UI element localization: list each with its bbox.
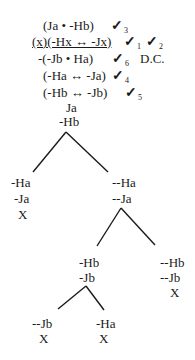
b2-right-line2: --Jb: [160, 271, 180, 285]
branch-line-3-left: [58, 286, 86, 309]
b2-right-line1: --Hb: [160, 256, 185, 270]
branch-line-1-right: [66, 132, 108, 172]
b3-right-line1: -Ha: [96, 317, 116, 331]
branch-line-3-right: [86, 286, 104, 310]
premise-3-conclusion-negation: -(-Jb • Ha): [38, 52, 93, 66]
closed-branch-x: X: [99, 332, 108, 346]
check-mark-icon: ✓5: [125, 86, 142, 105]
b3-left-line1: --Jb: [32, 317, 52, 331]
branch-line-2-left: [97, 208, 121, 246]
closed-branch-x: X: [39, 332, 48, 346]
branch-line-1-left: [33, 132, 66, 172]
closed-branch-x: X: [170, 286, 179, 300]
b2-left-line1: -Hb: [79, 256, 99, 270]
instance-a: (-Ha ↔ -Ja): [43, 69, 106, 83]
instance-b: (-Hb ↔ -Jb): [43, 86, 107, 100]
premise-1: (Ja • -Hb): [43, 19, 94, 33]
denied-conclusion-label: D.C.: [140, 52, 165, 66]
branch-line-2-right: [121, 208, 155, 245]
closed-branch-x: X: [18, 208, 27, 222]
b1-right-line2: --Ja: [112, 192, 132, 206]
trunk-not-hb: -Hb: [59, 115, 79, 129]
b2-left-line2: -Jb: [79, 271, 95, 285]
b1-left-line1: -Ha: [11, 176, 31, 190]
trunk-ja: Ja: [66, 101, 77, 115]
b1-right-line1: --Ha: [112, 176, 136, 190]
b1-left-line2: -Ja: [14, 192, 29, 206]
premise-2-universal: (x)(-Hx ↔ -Jx): [32, 35, 111, 49]
